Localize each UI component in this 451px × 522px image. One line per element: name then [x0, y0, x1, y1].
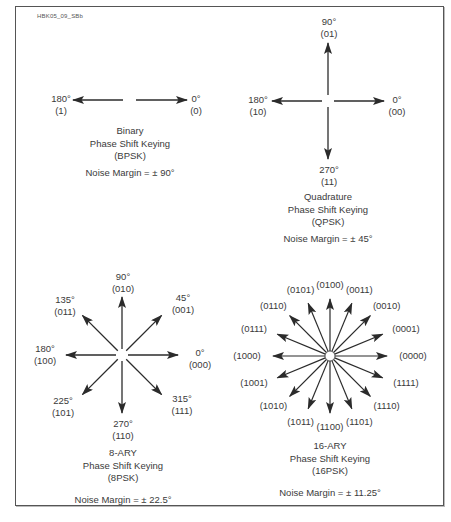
16psk-label-1001: (1001) — [240, 377, 267, 389]
code-text: (000) — [189, 358, 211, 370]
angle-text: 0° — [389, 94, 406, 106]
angle-text: 0° — [190, 93, 202, 105]
code-text: (001) — [172, 303, 194, 315]
8psk-label-270: 270° (110) — [112, 418, 133, 441]
caption-title: 16-ARY — [279, 440, 381, 453]
qpsk-label-180: 180° (10) — [248, 94, 268, 117]
code-text: (101) — [52, 406, 74, 418]
16psk-label-1110: (1110) — [374, 400, 400, 412]
8psk-label-225: 225° (101) — [52, 395, 74, 418]
angle-text: 135° — [54, 294, 75, 306]
qpsk-caption: Quadrature Phase Shift Keying (QPSK) Noi… — [283, 191, 372, 245]
code-text: (110) — [112, 429, 133, 441]
caption-title: Binary — [85, 125, 174, 138]
noise-margin: Noise Margin = ± 90° — [85, 167, 174, 180]
angle-text: 0° — [189, 347, 211, 359]
angle-text: 315° — [172, 393, 193, 405]
caption-abbr: (8PSK) — [75, 472, 172, 485]
8psk-label-135: 135° (011) — [54, 294, 75, 317]
constellation-diagrams — [0, 0, 451, 522]
caption-abbr: (16PSK) — [279, 465, 381, 478]
code-text: (0) — [190, 104, 202, 116]
code-text: (00) — [389, 105, 406, 117]
8psk-label-45: 45° (001) — [172, 292, 194, 315]
code-text: (10) — [248, 105, 268, 117]
caption-subtitle: Phase Shift Keying — [75, 460, 172, 473]
8psk-label-0: 0° (000) — [189, 347, 211, 370]
code-text: (1) — [51, 104, 71, 116]
angle-text: 90° — [112, 271, 134, 283]
16psk-label-0110: (0110) — [260, 300, 287, 312]
caption-subtitle: Phase Shift Keying — [283, 204, 372, 217]
8psk-caption: 8-ARY Phase Shift Keying (8PSK) Noise Ma… — [75, 447, 172, 506]
code-text: (01) — [321, 27, 338, 39]
16psk-caption: 16-ARY Phase Shift Keying (16PSK) Noise … — [279, 440, 381, 499]
code-text: (011) — [54, 305, 75, 317]
16psk-label-1010: (1010) — [260, 400, 287, 412]
caption-abbr: (QPSK) — [283, 216, 372, 229]
8psk-diagram — [66, 297, 178, 413]
8psk-label-90: 90° (010) — [112, 271, 134, 294]
bpsk-caption: Binary Phase Shift Keying (BPSK) Noise M… — [85, 125, 174, 179]
angle-text: 180° — [51, 93, 71, 105]
code-text: (111) — [172, 404, 193, 416]
caption-subtitle: Phase Shift Keying — [85, 138, 174, 151]
angle-text: 45° — [172, 292, 194, 304]
16psk-label-0010: (0010) — [373, 300, 400, 312]
qpsk-label-90: 90° (01) — [321, 16, 338, 39]
16psk-label-0000: (0000) — [399, 350, 426, 362]
8psk-label-315: 315° (111) — [172, 393, 193, 416]
bpsk-label-0: 0° (0) — [190, 93, 202, 116]
angle-text: 270° — [319, 164, 339, 176]
caption-subtitle: Phase Shift Keying — [279, 453, 381, 466]
angle-text: 90° — [321, 16, 338, 28]
noise-margin: Noise Margin = ± 22.5° — [75, 494, 172, 507]
noise-margin: Noise Margin = ± 45° — [283, 233, 372, 246]
qpsk-diagram — [272, 43, 384, 159]
16psk-label-1100: (1100) — [317, 421, 344, 433]
16psk-label-0011: (0011) — [346, 285, 373, 297]
caption-title: Quadrature — [283, 191, 372, 204]
16psk-label-0111: (0111) — [241, 323, 267, 335]
8psk-label-180: 180° (100) — [34, 343, 56, 366]
angle-text: 225° — [52, 395, 74, 407]
16psk-label-1111: (1111) — [393, 377, 418, 389]
angle-text: 180° — [248, 94, 268, 106]
noise-margin: Noise Margin = ± 11.25° — [279, 487, 381, 500]
code-text: (010) — [112, 282, 134, 294]
qpsk-label-270: 270° (11) — [319, 164, 339, 187]
angle-text: 180° — [34, 343, 56, 355]
code-text: (11) — [319, 175, 339, 187]
caption-title: 8-ARY — [75, 447, 172, 460]
16psk-label-1101: (1101) — [346, 416, 373, 428]
code-text: (100) — [34, 354, 56, 366]
qpsk-label-0: 0° (00) — [389, 94, 406, 117]
caption-abbr: (BPSK) — [85, 150, 174, 163]
bpsk-label-180: 180° (1) — [51, 93, 71, 116]
16psk-label-0100: (0100) — [316, 279, 343, 291]
16psk-label-0101: (0101) — [287, 285, 314, 297]
16psk-label-1000: (1000) — [233, 350, 260, 362]
16psk-label-0001: (0001) — [392, 323, 419, 335]
16psk-label-1011: (1011) — [287, 416, 314, 428]
16psk-center — [325, 351, 335, 361]
angle-text: 270° — [112, 418, 133, 430]
